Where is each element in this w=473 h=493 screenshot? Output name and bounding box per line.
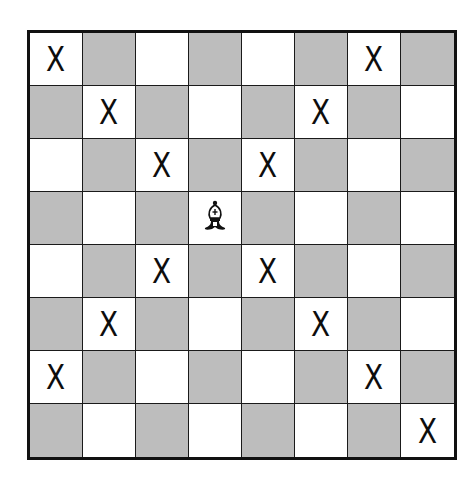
board-square bbox=[348, 298, 401, 351]
board-square: X bbox=[136, 139, 189, 192]
board-square bbox=[189, 404, 242, 457]
board-square bbox=[295, 245, 348, 298]
attack-mark: X bbox=[99, 307, 118, 341]
board-square bbox=[348, 86, 401, 139]
attack-mark: X bbox=[418, 414, 437, 448]
attack-mark: X bbox=[311, 95, 330, 129]
chess-board: XXXXXXXXXXXXX bbox=[27, 30, 457, 460]
attack-mark: X bbox=[311, 307, 330, 341]
board-square bbox=[189, 298, 242, 351]
board-square bbox=[189, 33, 242, 86]
board-square: X bbox=[242, 139, 295, 192]
board-square bbox=[30, 404, 83, 457]
board-square bbox=[295, 139, 348, 192]
board-square: X bbox=[83, 86, 136, 139]
attack-mark: X bbox=[364, 360, 383, 394]
board-square: X bbox=[348, 33, 401, 86]
board-square bbox=[401, 351, 454, 404]
board-square bbox=[136, 298, 189, 351]
board-square bbox=[242, 298, 295, 351]
board-square bbox=[401, 33, 454, 86]
board-square bbox=[30, 139, 83, 192]
board-square bbox=[83, 192, 136, 245]
attack-mark: X bbox=[364, 42, 383, 76]
attack-mark: X bbox=[152, 254, 171, 288]
board-square bbox=[30, 298, 83, 351]
board-square: X bbox=[295, 298, 348, 351]
board-square: X bbox=[83, 298, 136, 351]
board-square bbox=[295, 404, 348, 457]
board-square bbox=[136, 86, 189, 139]
board-square: X bbox=[30, 33, 83, 86]
attack-mark: X bbox=[152, 148, 171, 182]
attack-mark: X bbox=[99, 95, 118, 129]
attack-mark: X bbox=[46, 42, 65, 76]
board-square bbox=[189, 351, 242, 404]
board-square: X bbox=[136, 245, 189, 298]
board-square bbox=[242, 351, 295, 404]
board-square: X bbox=[401, 404, 454, 457]
board-square bbox=[401, 139, 454, 192]
board-square: X bbox=[295, 86, 348, 139]
board-square bbox=[295, 33, 348, 86]
board-square bbox=[30, 192, 83, 245]
board-square bbox=[189, 192, 242, 245]
board-square bbox=[136, 404, 189, 457]
board-square bbox=[189, 86, 242, 139]
board-square bbox=[348, 245, 401, 298]
board-square bbox=[83, 139, 136, 192]
board-square bbox=[83, 33, 136, 86]
board-square bbox=[242, 192, 295, 245]
board-square: X bbox=[30, 351, 83, 404]
board-square bbox=[30, 86, 83, 139]
board-square bbox=[242, 86, 295, 139]
board-square bbox=[83, 245, 136, 298]
board-square bbox=[401, 192, 454, 245]
board-square bbox=[295, 192, 348, 245]
board-square bbox=[189, 139, 242, 192]
board-square bbox=[401, 86, 454, 139]
attack-mark: X bbox=[46, 360, 65, 394]
board-square: X bbox=[242, 245, 295, 298]
board-square bbox=[348, 192, 401, 245]
board-square bbox=[242, 404, 295, 457]
board-square bbox=[136, 192, 189, 245]
board-square bbox=[401, 298, 454, 351]
attack-mark: X bbox=[258, 148, 277, 182]
board-square bbox=[136, 351, 189, 404]
board-square bbox=[295, 351, 348, 404]
attack-mark: X bbox=[258, 254, 277, 288]
board-square bbox=[242, 33, 295, 86]
board-square: X bbox=[348, 351, 401, 404]
board-square bbox=[83, 351, 136, 404]
board-square bbox=[348, 139, 401, 192]
board-square bbox=[348, 404, 401, 457]
board-square bbox=[83, 404, 136, 457]
board-square bbox=[189, 245, 242, 298]
board-square bbox=[30, 245, 83, 298]
bishop-icon bbox=[200, 199, 230, 237]
board-square bbox=[136, 33, 189, 86]
board-square bbox=[401, 245, 454, 298]
